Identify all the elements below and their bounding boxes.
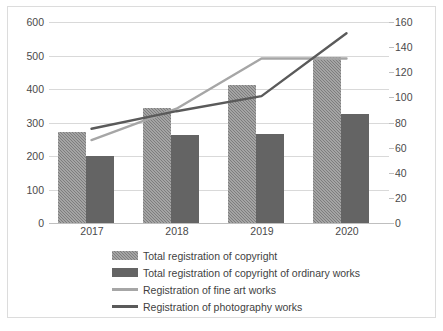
chart-container: 0100200300400500600020406080100120140160… [7,6,436,318]
x-axis-line [49,223,389,224]
y-axis-right-tickmark [389,123,394,124]
y-axis-left-tick-600: 600 [26,17,44,27]
y-axis-right-tickmark [389,198,394,199]
legend-swatch-line-series-1 [112,288,138,291]
y-axis-left-tick-400: 400 [26,84,44,94]
legend-item-registration-of-photography-works[interactable]: Registration of photography works [112,298,412,315]
y-axis-left-tick-0: 0 [38,218,44,228]
y-axis-right-tickmark [389,47,394,48]
y-axis-right-tick-160: 160 [395,17,413,27]
legend-label-4: Registration of photography works [143,301,302,313]
y-axis-right-tickmark [389,148,394,149]
legend-item-registration-of-fine-art-works[interactable]: Registration of fine art works [112,281,412,298]
legend-label-3: Registration of fine art works [143,284,276,296]
y-axis-right-tickmark [389,223,394,224]
y-axis-right-tick-0: 0 [395,218,401,228]
y-axis-left-tick-100: 100 [26,185,44,195]
line-series-1[interactable] [92,58,347,140]
y-axis-left-tick-500: 500 [26,51,44,61]
y-axis-left-tick-200: 200 [26,151,44,161]
legend-swatch-line-series-2 [112,305,138,308]
y-axis-right-tick-80: 80 [395,118,407,128]
legend-label-2: Total registration of copyright of ordin… [143,267,360,279]
chart-legend: Total registration of copyright Total re… [112,247,412,315]
plot-area: 0100200300400500600020406080100120140160… [49,22,389,223]
x-axis-tick-2020: 2020 [335,225,358,237]
legend-item-total-registration-of-copyright-of-ordinary-works[interactable]: Total registration of copyright of ordin… [112,264,412,281]
y-axis-right-tickmark [389,173,394,174]
x-axis-tick-2018: 2018 [165,225,188,237]
legend-label-1: Total registration of copyright [143,250,277,262]
y-axis-left-tick-300: 300 [26,118,44,128]
y-axis-right-tick-60: 60 [395,143,407,153]
legend-item-total-registration-of-copyright[interactable]: Total registration of copyright [112,247,412,264]
y-axis-right-tickmark [389,72,394,73]
line-series-overlay [49,22,389,223]
y-axis-right-tick-140: 140 [395,42,413,52]
y-axis-right-tick-20: 20 [395,193,407,203]
y-axis-right-tick-100: 100 [395,92,413,102]
y-axis-right-tickmark [389,97,394,98]
y-axis-right-tick-120: 120 [395,67,413,77]
x-axis-tick-2019: 2019 [250,225,273,237]
y-axis-right-tickmark [389,22,394,23]
y-axis-right-tick-40: 40 [395,168,407,178]
x-axis-tick-2017: 2017 [80,225,103,237]
legend-swatch-bar-series-2 [112,268,138,277]
line-series-2[interactable] [92,33,347,128]
legend-swatch-bar-series-1 [112,251,138,260]
